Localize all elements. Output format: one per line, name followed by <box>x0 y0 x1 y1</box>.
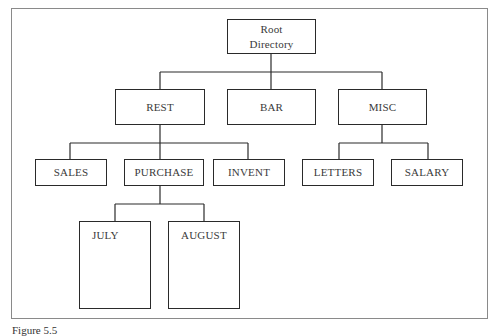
node-label: INVENT <box>228 165 270 180</box>
node-label: Directory <box>250 37 294 52</box>
node-label: PURCHASE <box>134 165 193 180</box>
node-root-directory: Root Directory <box>227 19 316 54</box>
node-july: JULY <box>79 221 151 309</box>
node-label: LETTERS <box>314 165 362 180</box>
node-bar: BAR <box>227 89 316 125</box>
node-invent: INVENT <box>213 159 285 186</box>
node-august: AUGUST <box>168 221 240 309</box>
node-label: MISC <box>369 100 397 115</box>
node-label: BAR <box>260 100 283 115</box>
node-label: REST <box>146 100 174 115</box>
node-label: SALES <box>54 165 89 180</box>
node-label: AUGUST <box>181 228 227 243</box>
node-rest: REST <box>115 89 205 125</box>
node-label: SALARY <box>405 165 450 180</box>
node-salary: SALARY <box>391 159 463 186</box>
node-label: JULY <box>92 228 119 243</box>
node-misc: MISC <box>338 89 427 125</box>
figure-caption: Figure 5.5 <box>12 324 57 336</box>
node-label: Root <box>260 22 282 37</box>
node-purchase: PURCHASE <box>124 159 204 186</box>
node-letters: LETTERS <box>302 159 374 186</box>
node-sales: SALES <box>35 159 107 186</box>
